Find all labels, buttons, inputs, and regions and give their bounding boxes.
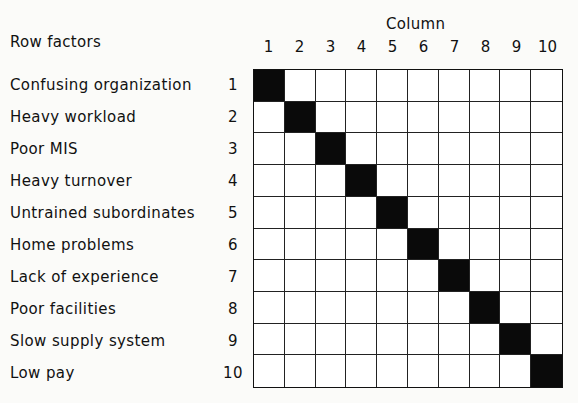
matrix-cell-empty	[439, 102, 470, 134]
row-number: 4	[221, 172, 245, 190]
column-number: 1	[253, 38, 284, 60]
matrix-cell-empty	[346, 102, 377, 134]
matrix-cell-filled	[377, 197, 408, 229]
matrix-cell-empty	[408, 165, 439, 197]
column-number: 7	[439, 38, 470, 60]
matrix-cell-empty	[500, 229, 531, 261]
matrix-cell-empty	[316, 102, 347, 134]
row-factor: Confusing organization1	[10, 69, 245, 101]
matrix-cell-empty	[470, 260, 501, 292]
row-factor-label: Poor facilities	[10, 300, 116, 318]
matrix-cell-empty	[470, 197, 501, 229]
matrix-cell-empty	[316, 355, 347, 387]
matrix-cell-empty	[377, 133, 408, 165]
matrix-cell-empty	[439, 355, 470, 387]
matrix-cell-empty	[439, 197, 470, 229]
row-factor: Low pay10	[10, 357, 245, 389]
matrix-cell-empty	[531, 70, 562, 102]
matrix-cell-empty	[285, 229, 316, 261]
row-factor: Slow supply system9	[10, 325, 245, 357]
column-heading: Column	[386, 15, 445, 33]
matrix-cell-empty	[316, 260, 347, 292]
column-number: 4	[346, 38, 377, 60]
row-factor-label: Poor MIS	[10, 140, 78, 158]
row-number: 3	[221, 140, 245, 158]
matrix-cell-empty	[408, 324, 439, 356]
matrix-cell-empty	[531, 165, 562, 197]
matrix-cell-empty	[408, 70, 439, 102]
matrix-cell-empty	[377, 324, 408, 356]
column-number: 6	[408, 38, 439, 60]
row-factor-label: Confusing organization	[10, 76, 192, 94]
matrix-cell-empty	[346, 197, 377, 229]
matrix-cell-empty	[285, 165, 316, 197]
matrix-cell-empty	[408, 102, 439, 134]
matrix-cell-empty	[500, 102, 531, 134]
matrix-cell-filled	[408, 229, 439, 261]
matrix-cell-empty	[316, 324, 347, 356]
matrix-cell-empty	[316, 70, 347, 102]
row-factor: Lack of experience7	[10, 261, 245, 293]
row-factor-label: Heavy workload	[10, 108, 136, 126]
row-factor: Poor MIS3	[10, 133, 245, 165]
matrix-cell-empty	[316, 197, 347, 229]
column-numbers: 12345678910	[253, 38, 563, 60]
matrix-cell-empty	[377, 355, 408, 387]
matrix-cell-empty	[408, 197, 439, 229]
row-factor-label: Low pay	[10, 364, 75, 382]
matrix-cell-empty	[439, 165, 470, 197]
matrix-cell-empty	[531, 197, 562, 229]
row-factor-label: Slow supply system	[10, 332, 166, 350]
matrix-cell-empty	[500, 292, 531, 324]
matrix-cell-empty	[346, 70, 377, 102]
matrix-cell-empty	[254, 165, 285, 197]
row-factor-label: Lack of experience	[10, 268, 159, 286]
row-number: 9	[221, 332, 245, 350]
matrix-cell-empty	[285, 355, 316, 387]
column-number: 9	[501, 38, 532, 60]
matrix-cell-filled	[346, 165, 377, 197]
matrix-cell-empty	[470, 355, 501, 387]
matrix-cell-filled	[470, 292, 501, 324]
matrix-cell-empty	[254, 102, 285, 134]
matrix-cell-empty	[470, 133, 501, 165]
matrix-cell-empty	[531, 292, 562, 324]
matrix-cell-empty	[285, 324, 316, 356]
matrix-cell-empty	[500, 165, 531, 197]
matrix-cell-empty	[470, 165, 501, 197]
matrix-cell-empty	[377, 260, 408, 292]
matrix-cell-empty	[285, 292, 316, 324]
matrix-cell-empty	[408, 355, 439, 387]
matrix-cell-empty	[377, 292, 408, 324]
row-factor: Untrained subordinates5	[10, 197, 245, 229]
matrix-cell-empty	[377, 102, 408, 134]
column-number: 8	[470, 38, 501, 60]
matrix-cell-empty	[470, 324, 501, 356]
matrix-cell-empty	[439, 229, 470, 261]
matrix-cell-empty	[285, 70, 316, 102]
matrix-cell-empty	[377, 165, 408, 197]
row-factor: Heavy workload2	[10, 101, 245, 133]
matrix-cell-empty	[285, 133, 316, 165]
row-number: 7	[221, 268, 245, 286]
matrix-cell-empty	[254, 292, 285, 324]
row-factors-heading: Row factors	[10, 33, 101, 51]
matrix-cell-empty	[439, 133, 470, 165]
matrix-cell-empty	[408, 260, 439, 292]
row-factor: Heavy turnover4	[10, 165, 245, 197]
matrix-cell-empty	[254, 229, 285, 261]
matrix-cell-empty	[346, 355, 377, 387]
matrix-cell-empty	[500, 133, 531, 165]
matrix-cell-empty	[346, 133, 377, 165]
row-factor-label: Home problems	[10, 236, 134, 254]
matrix-cell-empty	[531, 229, 562, 261]
matrix-cell-empty	[500, 260, 531, 292]
column-number: 5	[377, 38, 408, 60]
matrix-cell-empty	[439, 324, 470, 356]
matrix-cell-filled	[531, 355, 562, 387]
row-factor: Poor facilities8	[10, 293, 245, 325]
column-number: 10	[532, 38, 563, 60]
matrix-cell-filled	[439, 260, 470, 292]
matrix-cell-empty	[346, 260, 377, 292]
interaction-matrix	[253, 69, 563, 388]
